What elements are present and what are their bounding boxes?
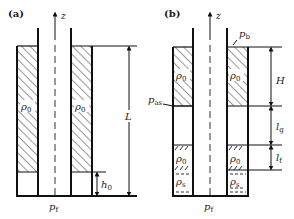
annulus-pressure-label: pas [148,94,163,107]
density-mid-right: ρ0 [229,153,240,166]
panel-a: (a) z ρ0 ρ0 L h0 pf [8,8,137,214]
bottom-pressure-label-a: pf [49,201,59,214]
z-axis-label-b: z [215,11,221,21]
lg-label: lg [276,121,284,134]
lf-label: lf [276,152,283,165]
wellbore-diagram: (a) z ρ0 ρ0 L h0 pf (b) [0,0,294,219]
sediment-right: ρs [229,176,240,189]
H-label: H [275,75,285,86]
z-axis-label-a: z [60,11,66,21]
bottom-pressure-label-b: pf [204,201,214,214]
L-label: L [124,111,132,122]
panel-b: (b) z [148,8,285,214]
h0-label: h0 [101,179,112,192]
density-mid-left: ρ0 [175,153,186,166]
sediment-left: ρs [175,176,186,189]
panel-a-label: (a) [8,8,24,19]
panel-b-label: (b) [164,8,180,19]
top-pressure-label: pb [239,28,250,41]
